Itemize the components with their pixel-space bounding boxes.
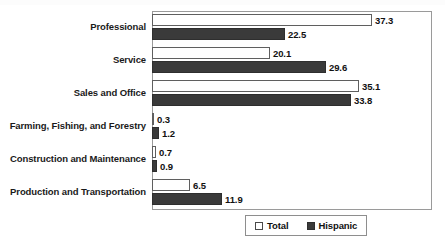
bar-value-hispanic: 1.2 [162, 128, 175, 139]
category-label: Service [0, 44, 146, 77]
bar-group-hispanic: 0.9 [152, 160, 173, 172]
bar-hispanic [152, 127, 159, 139]
category-bars: 37.3 22.5 [152, 11, 445, 44]
chart-legend: Total Hispanic [245, 215, 367, 236]
bar-group-hispanic: 33.8 [152, 94, 372, 106]
bar-hispanic [152, 28, 285, 40]
bar-hispanic [152, 193, 222, 205]
bar-value-total: 0.3 [157, 114, 170, 125]
bar-value-total: 35.1 [362, 81, 380, 92]
bar-group-total: 20.1 [152, 47, 291, 59]
bar-group-total: 35.1 [152, 80, 380, 92]
bar-value-hispanic: 29.6 [329, 62, 347, 73]
scan-artifact [0, 0, 445, 5]
bar-group-total: 37.3 [152, 14, 393, 26]
chart-category-row: Production and Transportation 6.5 11.9 [0, 176, 445, 209]
hollow-square-icon [255, 222, 263, 230]
bar-value-hispanic: 11.9 [225, 194, 243, 205]
category-bars: 0.3 1.2 [152, 110, 445, 143]
chart-category-row: Professional 37.3 22.5 [0, 11, 445, 44]
bar-value-hispanic: 22.5 [288, 29, 306, 40]
chart-category-row: Service 20.1 29.6 [0, 44, 445, 77]
bar-value-total: 20.1 [273, 48, 291, 59]
legend-item-total: Total [255, 220, 289, 231]
category-label: Production and Transportation [0, 176, 146, 209]
bar-chart: Professional 37.3 22.5 Service 20.1 29.6 [0, 0, 445, 241]
category-label: Professional [0, 11, 146, 44]
category-bars: 6.5 11.9 [152, 176, 445, 209]
chart-category-row: Construction and Maintenance 0.7 0.9 [0, 143, 445, 176]
category-bars: 20.1 29.6 [152, 44, 445, 77]
bar-group-total: 0.3 [152, 113, 170, 125]
bar-total [152, 14, 372, 26]
bar-group-total: 0.7 [152, 146, 172, 158]
category-bars: 0.7 0.9 [152, 143, 445, 176]
bar-group-hispanic: 11.9 [152, 193, 243, 205]
bar-hispanic [152, 94, 351, 106]
filled-square-icon [307, 222, 315, 230]
bar-group-hispanic: 22.5 [152, 28, 306, 40]
category-label: Sales and Office [0, 77, 146, 110]
category-bars: 35.1 33.8 [152, 77, 445, 110]
bar-hispanic [152, 61, 326, 73]
bar-total [152, 47, 270, 59]
bar-value-hispanic: 0.9 [160, 161, 173, 172]
bar-value-hispanic: 33.8 [354, 95, 372, 106]
chart-category-row: Sales and Office 35.1 33.8 [0, 77, 445, 110]
bar-total [152, 146, 156, 158]
bar-group-hispanic: 29.6 [152, 61, 347, 73]
legend-item-hispanic: Hispanic [307, 220, 358, 231]
bar-total [152, 80, 359, 92]
legend-label-hispanic: Hispanic [319, 220, 358, 231]
chart-category-row: Farming, Fishing, and Forestry 0.3 1.2 [0, 110, 445, 143]
category-label: Construction and Maintenance [0, 143, 146, 176]
bar-group-total: 6.5 [152, 179, 206, 191]
category-label: Farming, Fishing, and Forestry [0, 110, 146, 143]
bar-total [152, 179, 190, 191]
bar-value-total: 37.3 [375, 15, 393, 26]
bar-value-total: 6.5 [193, 180, 206, 191]
legend-label-total: Total [267, 220, 289, 231]
bar-group-hispanic: 1.2 [152, 127, 175, 139]
bar-total [152, 113, 154, 125]
bar-hispanic [152, 160, 157, 172]
bar-value-total: 0.7 [159, 147, 172, 158]
